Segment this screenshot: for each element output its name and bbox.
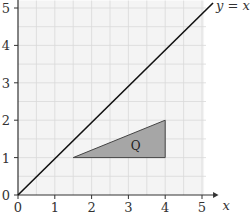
x-tick-label: 0 xyxy=(14,200,22,213)
y-tick-label: 4 xyxy=(2,38,10,53)
x-tick-label: 1 xyxy=(51,200,59,213)
y-tick-label: 0 xyxy=(2,188,10,203)
line-label: y = x xyxy=(215,0,250,13)
triangle-q-label: Q xyxy=(131,139,141,153)
x-tick-label: 2 xyxy=(87,200,95,213)
y-tick-label: 3 xyxy=(2,76,10,91)
y-tick-label: 5 xyxy=(2,1,10,16)
x-axis-arrow-icon xyxy=(213,192,219,198)
x-tick-label: 3 xyxy=(124,200,132,213)
x-tick-label: 5 xyxy=(198,200,206,213)
y-tick-label: 2 xyxy=(2,113,10,128)
x-axis-label: x xyxy=(222,198,230,213)
x-tick-label: 4 xyxy=(161,200,169,213)
grid-background xyxy=(18,1,204,195)
y-tick-label: 1 xyxy=(2,151,10,166)
chart: Q012345012345xy = x xyxy=(0,0,250,213)
